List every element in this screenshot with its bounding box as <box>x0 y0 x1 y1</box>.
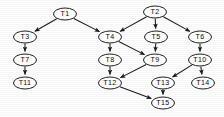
graph-node-t1[interactable]: T1 <box>54 8 77 20</box>
node-layer: T1T2T3T4T5T6T7T8T9T10T11T12T13T14T15 <box>14 6 215 109</box>
node-label-t7: T7 <box>21 56 30 64</box>
graph-edge-t2-to-t6 <box>163 17 189 32</box>
graph-edge-t2-to-t4 <box>120 17 146 32</box>
node-label-t12: T12 <box>103 79 116 87</box>
graph-node-t5[interactable]: T5 <box>145 31 168 43</box>
task-precedence-graph: T1T2T3T4T5T6T7T8T9T10T11T12T13T14T15 <box>0 0 224 117</box>
node-label-t6: T6 <box>196 33 205 41</box>
node-label-t8: T8 <box>106 56 115 64</box>
diagram-canvas: T1T2T3T4T5T6T7T8T9T10T11T12T13T14T15 <box>0 0 224 117</box>
graph-node-t2[interactable]: T2 <box>144 6 167 18</box>
node-label-t10: T10 <box>193 56 206 64</box>
graph-edge-t10-to-t13 <box>173 65 193 77</box>
graph-node-t12[interactable]: T12 <box>99 77 122 89</box>
node-label-t13: T13 <box>156 79 169 87</box>
node-label-t3: T3 <box>21 33 30 41</box>
graph-node-t3[interactable]: T3 <box>14 31 37 43</box>
graph-node-t9[interactable]: T9 <box>144 54 167 66</box>
graph-node-t14[interactable]: T14 <box>192 77 215 89</box>
graph-edge-t9-to-t12 <box>121 64 147 77</box>
graph-node-t13[interactable]: T13 <box>152 77 175 89</box>
graph-node-t11[interactable]: T11 <box>14 77 37 89</box>
node-label-t14: T14 <box>196 79 209 87</box>
graph-edge-t1-to-t3 <box>35 19 57 32</box>
node-label-t2: T2 <box>151 8 160 16</box>
node-label-t15: T15 <box>156 99 169 107</box>
graph-node-t4[interactable]: T4 <box>99 31 122 43</box>
node-label-t1: T1 <box>61 10 70 18</box>
graph-node-t10[interactable]: T10 <box>189 54 212 66</box>
graph-node-t6[interactable]: T6 <box>189 31 212 43</box>
graph-edge-t4-to-t9 <box>119 41 145 54</box>
graph-edge-t10-to-t14 <box>201 67 202 75</box>
graph-node-t8[interactable]: T8 <box>99 54 122 66</box>
node-label-t9: T9 <box>151 56 160 64</box>
graph-edge-t12-to-t15 <box>120 87 151 99</box>
node-label-t11: T11 <box>19 79 32 87</box>
node-label-t5: T5 <box>152 33 161 41</box>
graph-node-t7[interactable]: T7 <box>14 54 37 66</box>
graph-node-t15[interactable]: T15 <box>152 97 175 109</box>
graph-edge-t1-to-t4 <box>74 18 100 31</box>
node-label-t4: T4 <box>106 33 115 41</box>
